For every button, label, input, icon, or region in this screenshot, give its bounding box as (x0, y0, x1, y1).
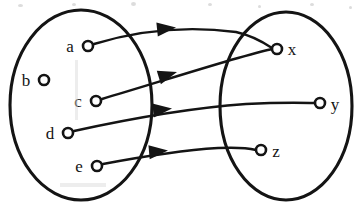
domain-element-b[interactable]: b (22, 71, 49, 90)
domain-element-a[interactable]: a (66, 37, 93, 56)
domain-elements: abcde (22, 37, 102, 176)
arrow-path-d-to-y (74, 103, 315, 131)
codomain-elements: xyz (256, 40, 340, 161)
node-circle-a[interactable] (83, 41, 93, 51)
arrowhead-a-to-x (156, 21, 176, 37)
domain-element-c[interactable]: c (74, 92, 101, 111)
node-label-y: y (331, 95, 340, 114)
arrowhead-e-to-z (148, 144, 168, 160)
arrow-c-to-x (102, 49, 272, 99)
node-label-e: e (75, 157, 83, 176)
node-circle-y[interactable] (315, 98, 325, 108)
node-label-d: d (46, 124, 55, 143)
node-circle-d[interactable] (63, 128, 73, 138)
node-label-a: a (66, 37, 74, 56)
node-label-z: z (272, 142, 280, 161)
codomain-element-z[interactable]: z (256, 142, 280, 161)
node-label-x: x (288, 40, 297, 59)
domain-element-d[interactable]: d (46, 124, 73, 143)
node-label-b: b (22, 71, 31, 90)
arrow-d-to-y (74, 102, 315, 131)
node-circle-b[interactable] (39, 75, 49, 85)
set-ellipses (10, 10, 352, 200)
node-circle-x[interactable] (272, 44, 282, 54)
set-mapping-figure: abcde xyz (0, 0, 362, 209)
domain-element-e[interactable]: e (75, 157, 102, 176)
codomain-element-y[interactable]: y (315, 95, 340, 114)
node-label-c: c (74, 92, 82, 111)
node-circle-c[interactable] (91, 96, 101, 106)
mapping-diagram-canvas: abcde xyz (0, 0, 362, 209)
node-circle-e[interactable] (92, 161, 102, 171)
arrow-path-c-to-x (102, 49, 272, 99)
node-circle-z[interactable] (256, 145, 266, 155)
codomain-element-x[interactable]: x (272, 40, 297, 59)
arrowhead-c-to-x (157, 65, 179, 84)
